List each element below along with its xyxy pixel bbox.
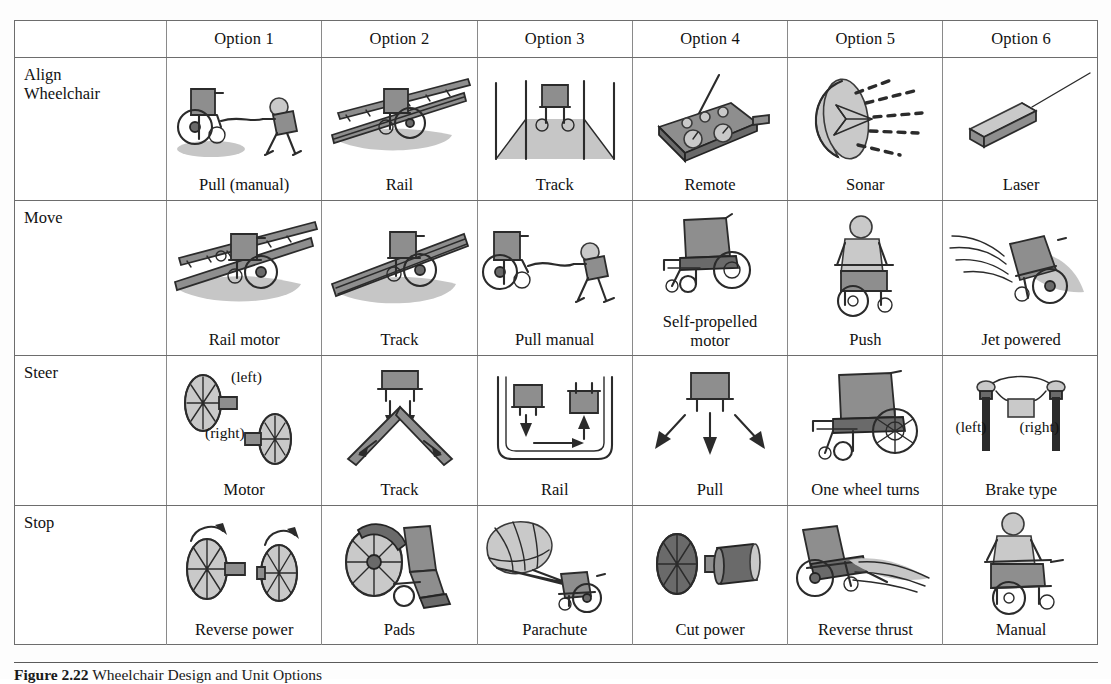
row-label-text: Move [15, 201, 63, 227]
dual-brake-lever-icon: (left) (right) [943, 356, 1098, 481]
row-label-line-2: Wheelchair [24, 84, 100, 103]
cell-caption: Pull manual [478, 331, 633, 355]
morphological-matrix-table: Option 1 Option 2 Option 3 Option 4 Opti… [14, 20, 1098, 645]
figure-caption-number: Figure 2.22 [14, 666, 89, 683]
person-pushing-wheelchair-icon [788, 201, 942, 331]
table-corner-cell [15, 21, 167, 57]
row-label-text: Steer [15, 356, 58, 382]
row-label-text: Align Wheelchair [15, 58, 100, 104]
cell-caption-line-1: Self-propelled [633, 313, 787, 332]
cell-move-option-6: Jet powered [943, 201, 1098, 355]
cell-stop-option-3: Parachute [478, 506, 633, 645]
cell-stop-option-2: Pads [322, 506, 477, 645]
jet-powered-wheelchair-icon [943, 201, 1098, 331]
column-header-label: Option 2 [370, 29, 430, 49]
column-header-label: Option 5 [835, 29, 895, 49]
wheelchair-side-view-icon [788, 356, 942, 481]
cell-stop-option-1: Reverse power [167, 506, 322, 645]
column-header-label: Option 1 [214, 29, 274, 49]
cell-align-option-5: Sonar [788, 58, 943, 200]
column-header-option-3: Option 3 [478, 21, 633, 57]
cell-caption: Remote [633, 176, 788, 200]
u-rail-loop-icon [478, 356, 632, 481]
cell-caption: Pull [633, 481, 788, 505]
cell-stop-option-4: Cut power [633, 506, 788, 645]
remote-control-icon [633, 58, 787, 176]
cell-caption: Pads [322, 621, 477, 645]
table-row-stop: Stop [15, 506, 1097, 645]
wheelchair-on-rail-icon [322, 58, 476, 176]
reverse-thrust-wheelchair-icon [788, 506, 942, 621]
row-label-move: Move [15, 201, 167, 355]
wheelchair-pulled-by-person-icon [167, 58, 321, 176]
cell-caption: Track [322, 331, 477, 355]
column-header-option-4: Option 4 [633, 21, 788, 57]
reverse-rotating-wheels-icon [167, 506, 321, 621]
figure-caption: Figure 2.22 Wheelchair Design and Unit O… [14, 666, 322, 684]
column-header-label: Option 4 [680, 29, 740, 49]
cell-caption: Reverse power [167, 621, 322, 645]
column-header-option-2: Option 2 [322, 21, 477, 57]
row-label-line-1: Align [24, 65, 100, 84]
row-label-text: Stop [15, 506, 54, 532]
cell-caption: Brake type [943, 481, 1098, 505]
wheelchair-pulled-by-person-icon [478, 201, 632, 331]
brake-pads-wheelchair-icon [322, 506, 476, 621]
parachute-wheelchair-icon [478, 506, 632, 621]
cell-caption: Manual [943, 621, 1098, 645]
cell-caption: Cut power [633, 621, 788, 645]
cell-caption: Jet powered [943, 331, 1098, 355]
cell-align-option-3: Track [478, 58, 633, 200]
table-row-align-wheelchair: Align Wheelchair [15, 58, 1097, 201]
cell-move-option-3: Pull manual [478, 201, 633, 355]
cell-caption: Sonar [788, 176, 943, 200]
wheelchair-on-track-icon [322, 201, 476, 331]
cell-caption-line-2: motor [633, 332, 787, 351]
column-header-option-6: Option 6 [943, 21, 1098, 57]
cell-caption: Track [322, 481, 477, 505]
manual-braking-person-icon [943, 506, 1098, 621]
cell-move-option-4: Self-propelled motor [633, 201, 788, 355]
wheel-motor-disconnect-icon [633, 506, 787, 621]
cell-caption: Rail [322, 176, 477, 200]
row-label-steer: Steer [15, 356, 167, 505]
cell-caption: One wheel turns [788, 481, 943, 505]
cell-caption: Motor [167, 481, 322, 505]
figure-caption-text: Wheelchair Design and Unit Options [92, 666, 322, 683]
wheelchair-on-rail-motor-icon [167, 201, 321, 331]
cell-steer-option-4: Pull [633, 356, 788, 505]
column-header-label: Option 6 [991, 29, 1051, 49]
cell-stop-option-6: Manual [943, 506, 1098, 645]
table-row-steer: Steer (left) ( [15, 356, 1097, 506]
row-label-align-wheelchair: Align Wheelchair [15, 58, 167, 200]
cell-caption: Push [788, 331, 943, 355]
cell-caption: Track [478, 176, 633, 200]
cell-move-option-2: Track [322, 201, 477, 355]
cell-move-option-5: Push [788, 201, 943, 355]
two-motor-wheels-icon: (left) (right) [167, 356, 321, 481]
cell-caption: Rail motor [167, 331, 322, 355]
annotation-left: (left) [231, 368, 262, 386]
motorized-wheelchair-icon [633, 201, 787, 313]
table-row-move: Move [15, 201, 1097, 356]
cell-caption: Parachute [478, 621, 633, 645]
cell-caption: Rail [478, 481, 633, 505]
cell-caption: Reverse thrust [788, 621, 943, 645]
annotation-left: (left) [955, 418, 986, 436]
cell-move-option-1: Rail motor [167, 201, 322, 355]
cell-caption: Laser [943, 176, 1098, 200]
wheelchair-on-floor-track-icon [478, 58, 632, 176]
table-header-row: Option 1 Option 2 Option 3 Option 4 Opti… [15, 21, 1097, 58]
laser-pointer-icon [943, 58, 1098, 176]
row-label-stop: Stop [15, 506, 167, 645]
cell-align-option-4: Remote [633, 58, 788, 200]
annotation-right: (right) [205, 424, 245, 442]
sonar-dish-icon [788, 58, 942, 176]
v-track-steering-icon [322, 356, 476, 481]
cell-align-option-2: Rail [322, 58, 477, 200]
column-header-option-5: Option 5 [788, 21, 943, 57]
cell-align-option-1: Pull (manual) [167, 58, 322, 200]
row-label-line-1: Steer [24, 363, 58, 382]
pull-direction-arrows-icon [633, 356, 787, 481]
